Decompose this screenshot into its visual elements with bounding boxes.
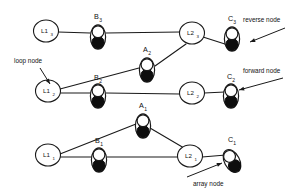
annotation-reverse-node: reverse node <box>243 16 285 42</box>
cell-node-c_3[interactable]: C3 <box>224 14 239 51</box>
cell-node-b_3[interactable]: B3 <box>90 12 105 49</box>
annotation-arrowhead-icon <box>216 163 222 167</box>
edge-a_1-to-l2_1 <box>150 128 184 148</box>
cell-node-body <box>139 58 154 82</box>
cell-node-body <box>90 84 105 108</box>
cell-node-c_2[interactable]: C2 <box>223 72 238 108</box>
annotation-label: loop node <box>14 57 43 65</box>
cell-node-c_1[interactable]: C1 <box>220 135 245 175</box>
annotation-leader-line <box>239 78 283 90</box>
cell-node-subscript: 1 <box>233 140 236 146</box>
annotation-forward-node: forward node <box>239 67 283 91</box>
loop-node-l1_2[interactable]: L12 <box>36 80 61 102</box>
cell-node-body <box>223 84 238 108</box>
loop-node-label: L1 <box>43 87 50 94</box>
edge-b_2-to-l2_2 <box>106 93 180 94</box>
loop-node-l2_3[interactable]: L23 <box>180 22 205 44</box>
cell-node-subscript: 2 <box>232 77 235 83</box>
edge-a_2-to-l2_3 <box>155 44 186 66</box>
loop-node-label: L2 <box>185 152 192 159</box>
cell-node-subscript: 3 <box>233 19 236 25</box>
annotation-label: reverse node <box>243 16 281 23</box>
cell-node-body <box>220 147 245 176</box>
cell-node-forward-circle[interactable] <box>225 85 237 97</box>
loop-node-l2_2[interactable]: L22 <box>180 82 205 104</box>
loop-node-label: L2 <box>187 29 194 36</box>
cell-node-a_2[interactable]: A2 <box>139 45 154 82</box>
annotation-leader-line <box>250 28 285 42</box>
cell-node-b_1[interactable]: B1 <box>91 136 106 172</box>
annotation-label: array node <box>193 180 224 188</box>
cell-node-subscript: 2 <box>99 78 102 84</box>
cell-node-forward-circle[interactable] <box>226 28 238 40</box>
cell-node-body <box>90 25 105 49</box>
cell-node-forward-circle[interactable] <box>92 26 104 38</box>
edge-l2_1-to-c_1 <box>202 155 226 157</box>
cell-node-forward-circle[interactable] <box>93 149 105 161</box>
cell-node-subscript: 3 <box>99 17 102 23</box>
loop-node-label: L1 <box>43 151 50 158</box>
cell-node-subscript: 1 <box>144 106 147 112</box>
loop-node-l2_1[interactable]: L21 <box>178 145 203 167</box>
cell-node-b_2[interactable]: B2 <box>90 73 105 108</box>
cell-node-forward-circle[interactable] <box>137 115 149 127</box>
diagram-svg: L13L23L12L22L11L21 B3C3A2B2C2A1B1C1 loop… <box>0 0 300 191</box>
cell-node-subscript: 2 <box>148 50 151 56</box>
annotation-arrowhead-icon <box>239 87 245 91</box>
loop-node-label: L1 <box>41 27 48 34</box>
loop-node-l1_1[interactable]: L11 <box>36 144 61 166</box>
annotation-arrowhead-icon <box>250 38 256 42</box>
loop-node-l1_3[interactable]: L13 <box>34 20 59 42</box>
annotation-label: forward node <box>243 67 281 74</box>
loop-node-label: L2 <box>187 89 194 96</box>
cell-node-body <box>224 27 239 51</box>
edge-l1_3-to-b_3 <box>58 32 90 33</box>
edge-l2_2-to-c_2 <box>204 92 225 93</box>
cell-node-a_1[interactable]: A1 <box>135 101 150 138</box>
cell-node-subscript: 1 <box>100 141 103 147</box>
cell-node-forward-circle[interactable] <box>141 59 153 71</box>
cell-node-body <box>135 114 150 138</box>
edge-b_3-to-l2_3 <box>106 32 180 33</box>
cell-node-body <box>91 148 106 172</box>
cell-node-forward-circle[interactable] <box>92 85 104 97</box>
diagram-canvas: L13L23L12L22L11L21 B3C3A2B2C2A1B1C1 loop… <box>0 0 300 191</box>
